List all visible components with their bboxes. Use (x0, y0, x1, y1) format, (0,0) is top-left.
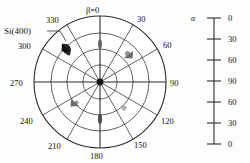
azimuth-label-150: 150 (134, 140, 147, 150)
scalebar-label-0a: 0 (228, 13, 232, 23)
azimuth-label-270: 270 (10, 78, 23, 88)
azimuth-label-180: 180 (90, 151, 103, 161)
alpha-scalebar-svg: α 0 30 60 90 60 30 0 (186, 0, 250, 163)
azimuth-label-beta0: β=0 (86, 5, 99, 15)
pole-spot-beta135 (121, 106, 126, 111)
azimuth-label-90: 90 (170, 78, 179, 88)
scalebar-label-30a: 30 (228, 34, 237, 44)
polar-plot: Si(400) β=0 30 60 90 120 150 180 210 240… (0, 0, 186, 163)
polar-plot-svg: Si(400) β=0 30 60 90 120 150 180 210 240… (0, 0, 186, 163)
alpha-axis-label: α (191, 14, 196, 23)
azimuth-label-300: 300 (18, 41, 31, 51)
azimuth-label-120: 120 (161, 116, 174, 126)
azimuth-label-30: 30 (137, 14, 146, 24)
azimuth-label-330: 330 (46, 15, 59, 25)
azimuth-label-210: 210 (48, 141, 61, 151)
pole-spot-beta180 (98, 114, 102, 124)
azimuth-label-60: 60 (163, 40, 172, 50)
annotation-label: Si(400) (4, 26, 31, 36)
pole-spot-center (97, 79, 104, 86)
scalebar-label-60b: 60 (228, 97, 237, 107)
pole-figure-panel: Si(400) β=0 30 60 90 120 150 180 210 240… (0, 0, 250, 163)
scalebar-label-90: 90 (228, 76, 237, 86)
scalebar-label-30b: 30 (228, 118, 237, 128)
azimuth-label-240: 240 (20, 116, 33, 126)
scalebar-label-60a: 60 (228, 55, 237, 65)
pole-spot-beta0 (98, 39, 102, 48)
scalebar-label-0b: 0 (228, 139, 232, 149)
alpha-scalebar: α 0 30 60 90 60 30 0 (186, 0, 250, 163)
